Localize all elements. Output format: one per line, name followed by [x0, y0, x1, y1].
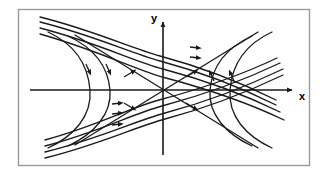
figure-root: x y [0, 0, 329, 179]
y-axis-label: y [151, 12, 158, 24]
x-axis-label: x [299, 90, 306, 102]
figure-border [19, 10, 310, 166]
phase-portrait-diagram: x y [0, 0, 329, 179]
